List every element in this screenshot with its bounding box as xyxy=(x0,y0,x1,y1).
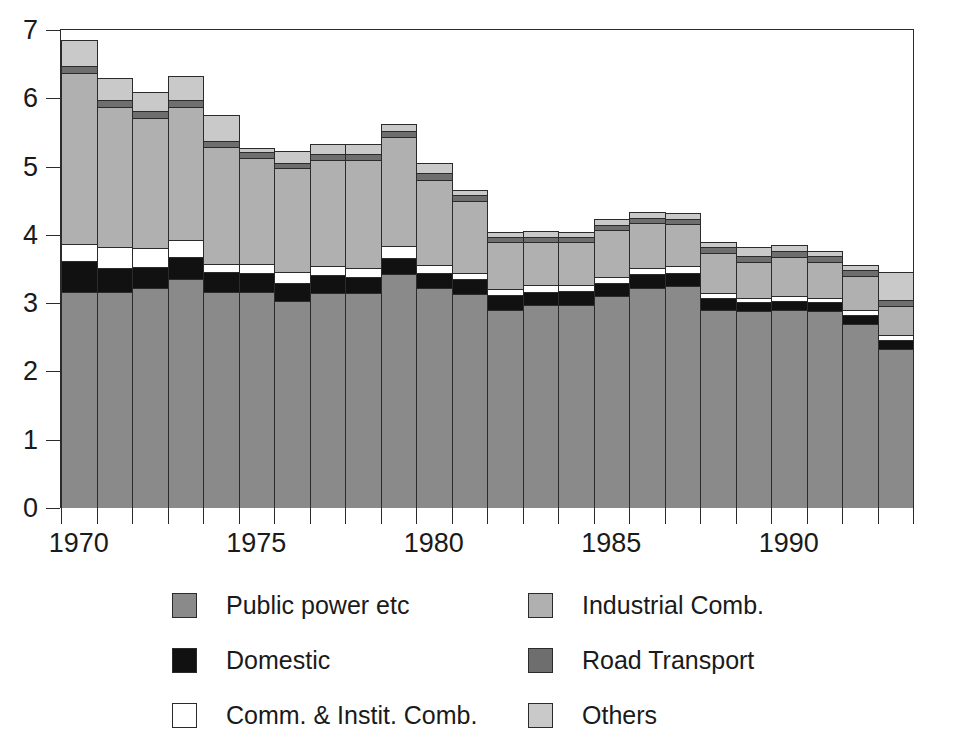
legend-item-label: Domestic xyxy=(226,648,330,673)
x-axis-tick xyxy=(168,508,169,524)
bar-segment xyxy=(133,267,168,288)
bar-segment xyxy=(453,201,488,273)
bar-segment xyxy=(98,292,133,508)
x-axis-tick xyxy=(878,508,879,524)
x-axis-tick xyxy=(132,508,133,524)
bar-1975[interactable] xyxy=(239,148,276,508)
bar-segment xyxy=(382,258,417,274)
bar-segment xyxy=(843,324,878,508)
bar-segment xyxy=(843,315,878,324)
bar-1982[interactable] xyxy=(487,232,524,509)
x-axis-tick xyxy=(452,508,453,524)
swatch-domestic xyxy=(172,648,197,673)
legend-item[interactable]: Comm. & Instit. Comb. xyxy=(172,688,477,743)
y-axis-tick xyxy=(46,167,60,168)
bar-segment xyxy=(666,266,701,273)
bar-1978[interactable] xyxy=(345,144,382,508)
bar-segment xyxy=(204,147,239,263)
bar-1979[interactable] xyxy=(381,124,418,508)
bar-1971[interactable] xyxy=(97,78,134,508)
x-axis-tick xyxy=(274,508,275,524)
bar-segment xyxy=(98,107,133,247)
bar-segment xyxy=(630,288,665,508)
bar-segment xyxy=(62,261,97,292)
legend-item-label: Public power etc xyxy=(226,593,409,618)
bar-segment xyxy=(737,247,772,257)
legend-item[interactable]: Road Transport xyxy=(528,633,764,688)
bar-1991[interactable] xyxy=(807,251,844,508)
x-axis: 19701975198019851990 xyxy=(0,508,954,560)
bar-segment xyxy=(808,262,843,298)
bar-segment xyxy=(630,268,665,275)
bar-segment xyxy=(524,292,559,306)
y-axis-tick xyxy=(46,303,60,304)
bar-segment xyxy=(240,273,275,291)
bar-1973[interactable] xyxy=(168,76,205,508)
y-axis-tick xyxy=(46,371,60,372)
bar-segment xyxy=(879,272,914,301)
bar-1990[interactable] xyxy=(771,245,808,508)
bar-1986[interactable] xyxy=(629,212,666,508)
bar-1980[interactable] xyxy=(416,163,453,508)
bar-segment xyxy=(737,311,772,508)
swatch-industrial xyxy=(528,593,553,618)
bar-segment xyxy=(204,272,239,291)
bar-segment xyxy=(559,242,594,284)
bar-1977[interactable] xyxy=(310,144,347,508)
y-axis-label: 4 xyxy=(23,221,38,248)
swatch-road-transport xyxy=(528,648,553,673)
bar-segment xyxy=(133,92,168,111)
x-axis-tick xyxy=(203,508,204,524)
bar-segment xyxy=(98,78,133,101)
x-axis-tick xyxy=(558,508,559,524)
legend-item[interactable]: Industrial Comb. xyxy=(528,578,764,633)
y-axis-tick xyxy=(46,440,60,441)
y-axis-label: 1 xyxy=(23,426,38,453)
x-axis-label: 1985 xyxy=(581,530,641,557)
bar-segment xyxy=(204,141,239,148)
legend-column-right: Industrial Comb.Road TransportOthers xyxy=(528,578,764,743)
bar-1974[interactable] xyxy=(203,115,240,508)
bar-1981[interactable] xyxy=(452,190,489,508)
bar-segment xyxy=(808,302,843,311)
bar-segment xyxy=(453,279,488,294)
bar-1988[interactable] xyxy=(700,242,737,508)
bar-segment xyxy=(240,158,275,264)
legend-item[interactable]: Domestic xyxy=(172,633,477,688)
bar-1983[interactable] xyxy=(523,231,560,508)
x-axis-tick xyxy=(736,508,737,524)
bar-1992[interactable] xyxy=(842,265,879,508)
bar-segment xyxy=(169,279,204,508)
y-axis-label: 2 xyxy=(23,358,38,385)
bar-segment xyxy=(133,111,168,118)
bar-1984[interactable] xyxy=(558,232,595,509)
y-axis-label: 3 xyxy=(23,290,38,317)
x-axis-tick xyxy=(594,508,595,524)
bar-segment xyxy=(417,288,452,508)
bars-layer xyxy=(61,30,913,508)
bar-segment xyxy=(169,76,204,100)
bar-segment xyxy=(133,248,168,267)
bar-segment xyxy=(559,305,594,508)
chart-page: 01234567 19701975198019851990 Public pow… xyxy=(0,0,954,744)
y-axis-label: 7 xyxy=(23,17,38,44)
bar-1970[interactable] xyxy=(61,40,98,508)
bar-1976[interactable] xyxy=(274,151,311,508)
bar-1987[interactable] xyxy=(665,213,702,508)
bar-1993[interactable] xyxy=(878,272,915,508)
bar-segment xyxy=(559,291,594,305)
bar-1989[interactable] xyxy=(736,247,773,508)
legend-item[interactable]: Others xyxy=(528,688,764,743)
x-axis-tick xyxy=(842,508,843,524)
legend-item-label: Road Transport xyxy=(582,648,754,673)
bar-segment xyxy=(275,283,310,301)
bar-segment xyxy=(62,244,97,261)
bar-1972[interactable] xyxy=(132,92,169,508)
y-axis: 01234567 xyxy=(0,0,60,560)
bar-1985[interactable] xyxy=(594,219,631,508)
bar-segment xyxy=(417,180,452,265)
bar-segment xyxy=(595,296,630,508)
legend-item[interactable]: Public power etc xyxy=(172,578,477,633)
bar-segment xyxy=(240,264,275,274)
bar-segment xyxy=(772,310,807,508)
